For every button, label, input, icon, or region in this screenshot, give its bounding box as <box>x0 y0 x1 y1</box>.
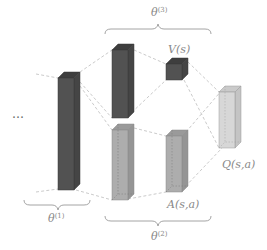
theta3-label: θ(3) <box>151 6 168 19</box>
connection-b1-b2-bottom <box>80 82 112 118</box>
theta2-brace <box>105 216 211 226</box>
connection-b3-a-top <box>134 128 166 136</box>
connection-b1-b3-bottom <box>76 190 112 200</box>
theta1-brace <box>24 200 90 210</box>
theta2-label: θ(2) <box>151 230 168 243</box>
value-label: V(s) <box>168 43 190 56</box>
theta3-brace <box>105 24 211 34</box>
connection-b2-v-top <box>134 50 166 64</box>
q-output-box <box>219 86 241 148</box>
value-output-box <box>166 58 188 80</box>
theta1-label: θ(1) <box>48 212 65 225</box>
connection-b1-b2-top <box>80 50 112 72</box>
shared-conv-layer-box <box>58 72 80 190</box>
value-stream-hidden-box <box>112 44 134 118</box>
advantage-label: A(s,a) <box>166 198 199 211</box>
advantage-output-box <box>166 130 188 192</box>
input-ellipsis: … <box>12 107 24 121</box>
connection-b1-b3-top <box>80 86 112 130</box>
connection-input-top <box>36 74 58 78</box>
q-value-label: Q(s,a) <box>222 158 255 171</box>
connection-a-q-top <box>186 90 222 132</box>
connection-v-q-top <box>188 62 219 92</box>
connection-input-bottom <box>36 189 58 192</box>
advantage-stream-hidden-box <box>112 124 134 200</box>
dueling-network-diagram: … θ(3) V(s) Q(s,a) A(s,a) θ(1) θ(2) <box>0 0 267 250</box>
